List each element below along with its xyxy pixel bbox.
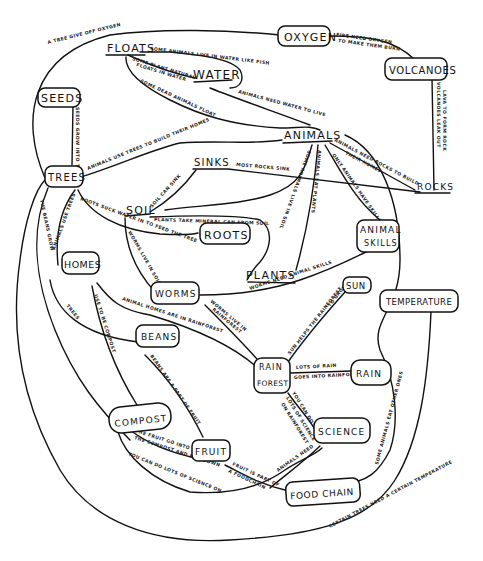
node-roots[interactable]: ROOTS (200, 223, 250, 244)
edge-soil-worms (125, 218, 155, 292)
node-label: SINKS (194, 157, 230, 168)
edge-soil-sinks (150, 170, 196, 212)
node-soil[interactable]: SOIL (126, 204, 156, 217)
node-label: TEMPERATURE (385, 297, 452, 307)
edge-label: VOLCANOES LEAK OUT (436, 82, 441, 148)
edge-trees-fruit (37, 188, 130, 440)
node-label: ROCKS (417, 182, 454, 192)
node-sun[interactable]: SUN (343, 277, 371, 293)
node-temperature[interactable]: TEMPERATURE (380, 290, 458, 312)
node-label: VOLCANOES (389, 65, 456, 76)
node-beans[interactable]: BEANS (136, 325, 179, 347)
node-label: FRUIT (195, 447, 227, 457)
node-label: ROOTS (204, 229, 249, 242)
node-label: ANIMAL (360, 225, 402, 235)
node-label: SEEDS (41, 92, 83, 105)
node-plants[interactable]: PLANTS (246, 269, 296, 282)
edge-label: ANIMALS NEED ROCKS TO BUILD (334, 137, 420, 186)
edge-worms-rainforest (205, 305, 265, 368)
node-food-chain[interactable]: FOOD CHAIN (285, 477, 360, 506)
node-label: HOMES (64, 259, 101, 270)
node-volcanoes[interactable]: VOLCANOES (385, 58, 456, 80)
node-label: SKILLS (364, 239, 398, 248)
node-trees[interactable]: TREES (45, 166, 86, 187)
edge-homes-beans (50, 280, 138, 342)
node-label: FLOATS (107, 42, 155, 55)
node-label: ANIMALS (284, 129, 342, 142)
edge-label: ANIMALS EAT PLANTS (310, 150, 322, 214)
edge-sun-rainforest (288, 292, 345, 362)
node-animals[interactable]: ANIMALS (284, 129, 342, 142)
node-label: SUN (346, 281, 366, 291)
edge-label: LAVA TO FORM ROCK (442, 90, 447, 151)
node-label: WATER (193, 68, 241, 82)
node-label: RAIN (259, 363, 283, 372)
node-rain-forest[interactable]: RAIN FOREST (254, 358, 290, 393)
concept-map: A TREE GIVE OFF OXYGEN FIRE NEED OXYGEN … (0, 0, 483, 561)
edge-label: ANIMALS USE TREES TO BUILD THEIR HOMES (87, 117, 211, 171)
node-rocks[interactable]: ROCKS (417, 182, 454, 192)
node-label: SOIL (126, 204, 156, 217)
node-oxygen[interactable]: OXYGEN (278, 26, 337, 46)
node-water[interactable]: WATER (193, 68, 241, 82)
edge-label: SOME DEAD ANIMALS FLOAT (140, 78, 218, 118)
nodes: OXYGEN VOLCANOES FLOATS WATER SEEDS TREE… (38, 26, 458, 507)
edge-seeds-trees (72, 104, 73, 165)
edge-label: USE TO BE COMPOST (93, 294, 117, 354)
node-label: RAIN (356, 369, 382, 379)
node-fruit[interactable]: FRUIT (192, 440, 230, 461)
node-sinks[interactable]: SINKS (194, 157, 230, 168)
node-seeds[interactable]: SEEDS (38, 88, 83, 107)
edge-label: THE BEANS GROW (39, 199, 55, 251)
node-floats[interactable]: FLOATS (107, 42, 155, 55)
node-science[interactable]: SCIENCE (314, 418, 370, 443)
node-label: SCIENCE (318, 427, 365, 437)
node-rain[interactable]: RAIN (351, 360, 391, 385)
node-label: FOREST (257, 379, 288, 388)
edge-label: ANIMALS USE TREES (51, 192, 76, 250)
node-compost[interactable]: COMPOST (108, 402, 172, 434)
edge-label: SOME ANIMALS LIVE IN WATER LIKE FISH (150, 46, 270, 66)
node-label: BEANS (141, 332, 177, 342)
node-label: TREES (47, 172, 86, 183)
node-homes[interactable]: HOMES (62, 252, 101, 274)
edge-volcanoes-rocks (432, 78, 434, 190)
node-worms[interactable]: WORMS (151, 282, 199, 304)
node-label: OXYGEN (284, 31, 337, 44)
node-label: WORMS (155, 289, 197, 299)
edge-label: LOTS OF RAIN (296, 363, 337, 370)
node-animal-skills[interactable]: ANIMAL SKILLS (357, 220, 402, 252)
node-label: PLANTS (246, 269, 296, 282)
